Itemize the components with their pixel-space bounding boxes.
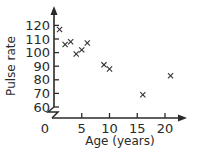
data-point-x-marker — [101, 62, 106, 67]
y-axis-arrow-icon — [51, 6, 58, 15]
y-tick-label: 100 — [25, 45, 50, 60]
data-point-x-marker — [85, 40, 90, 45]
y-axis-title: Pulse rate — [4, 36, 18, 96]
data-point-x-marker — [140, 92, 145, 97]
y-tick-label: 70 — [33, 86, 50, 101]
data-points — [57, 27, 173, 97]
x-axis-ticks: 05101520 — [41, 113, 173, 136]
x-axis-title: Age (years) — [85, 134, 154, 148]
scatter-chart: 60708090100110120 05101520 Age (years) P… — [0, 0, 199, 157]
data-point-x-marker — [74, 51, 79, 56]
data-point-x-marker — [79, 47, 84, 52]
x-tick-label: 0 — [41, 121, 49, 136]
data-point-x-marker — [168, 73, 173, 78]
data-point-x-marker — [63, 42, 68, 47]
y-tick-label: 120 — [25, 18, 50, 33]
y-tick-label: 110 — [25, 32, 50, 47]
data-point-x-marker — [68, 39, 73, 44]
x-axis-arrow-icon — [178, 115, 187, 122]
data-point-x-marker — [57, 27, 62, 32]
y-tick-label: 90 — [33, 59, 50, 74]
data-point-x-marker — [107, 66, 112, 71]
x-tick-label: 20 — [157, 121, 174, 136]
y-tick-label: 80 — [33, 72, 50, 87]
